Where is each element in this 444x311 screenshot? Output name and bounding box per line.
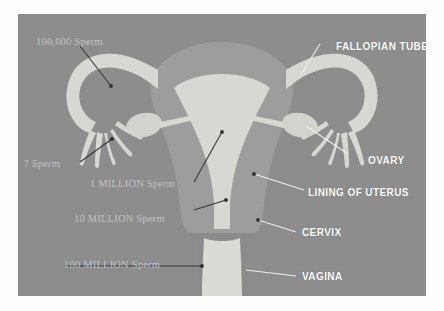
figure-root: FALLOPIAN TUBE OVARY LINING OF UTERUS CE… [0,0,444,311]
cervical-canal [214,204,230,229]
diagram-panel: FALLOPIAN TUBE OVARY LINING OF UTERUS CE… [18,14,426,296]
anatomy-illustration [18,14,426,296]
vagina-shape [202,238,242,296]
